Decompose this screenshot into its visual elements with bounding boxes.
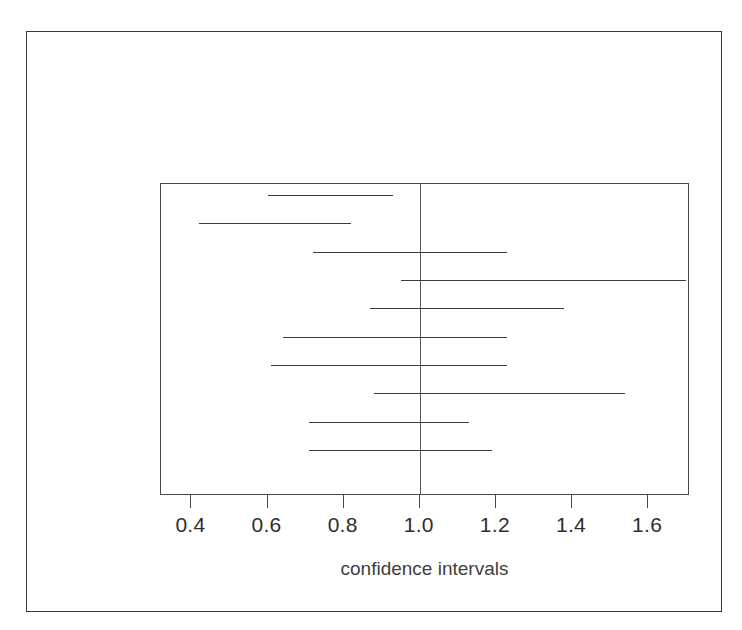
confidence-interval-line: [313, 252, 507, 253]
x-axis-tick-mark: [267, 495, 268, 508]
reference-line-at-one: [420, 184, 421, 494]
confidence-interval-line: [370, 308, 564, 309]
x-axis-title: confidence intervals: [160, 558, 689, 580]
x-axis-tick-mark: [343, 495, 344, 508]
x-axis-tick-label: 1.2: [480, 513, 510, 537]
x-axis-tick-mark: [419, 495, 420, 508]
plot-inner-area: [161, 184, 688, 494]
x-axis-tick-label: 1.6: [632, 513, 662, 537]
confidence-interval-line: [309, 450, 492, 451]
confidence-interval-figure: confidence intervals 0.40.60.81.01.21.41…: [0, 0, 742, 630]
confidence-interval-line: [374, 393, 625, 394]
x-axis-tick-label: 0.6: [252, 513, 282, 537]
x-axis: confidence intervals 0.40.60.81.01.21.41…: [160, 495, 689, 615]
figure-outer-frame: confidence intervals 0.40.60.81.01.21.41…: [26, 31, 722, 612]
x-axis-tick-mark: [190, 495, 191, 508]
x-axis-tick-label: 0.8: [328, 513, 358, 537]
confidence-interval-line: [401, 280, 686, 281]
confidence-interval-line: [271, 365, 507, 366]
x-axis-tick-label: 1.4: [556, 513, 586, 537]
confidence-interval-line: [199, 223, 351, 224]
confidence-interval-line: [309, 422, 469, 423]
x-axis-tick-mark: [647, 495, 648, 508]
x-axis-tick-mark: [571, 495, 572, 508]
confidence-interval-line: [268, 195, 394, 196]
x-axis-tick-label: 1.0: [404, 513, 434, 537]
x-axis-tick-mark: [495, 495, 496, 508]
confidence-interval-line: [283, 337, 508, 338]
x-axis-tick-label: 0.4: [175, 513, 205, 537]
plot-panel: [160, 183, 689, 495]
